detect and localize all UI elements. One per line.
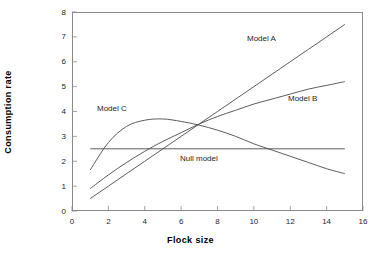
y-tick-label: 5 xyxy=(46,82,66,91)
series-label-model-a: Model A xyxy=(247,34,276,43)
y-axis-title: Consumption rate xyxy=(3,57,13,167)
series-line-model-c xyxy=(90,119,345,174)
series-label-model-c: Model C xyxy=(97,104,127,113)
y-tick-label: 1 xyxy=(46,182,66,191)
y-tick-label: 3 xyxy=(46,132,66,141)
x-tick-label: 14 xyxy=(317,217,337,226)
x-tick-label: 6 xyxy=(171,217,191,226)
y-tick-label: 4 xyxy=(46,107,66,116)
x-tick-label: 8 xyxy=(208,217,228,226)
series-group xyxy=(90,24,345,198)
y-tick-label: 6 xyxy=(46,57,66,66)
x-tick-label: 2 xyxy=(98,217,118,226)
y-tick-label: 0 xyxy=(46,207,66,216)
y-tick-label: 7 xyxy=(46,32,66,41)
x-tick-label: 16 xyxy=(353,217,373,226)
y-tick-label: 2 xyxy=(46,157,66,166)
x-tick-label: 12 xyxy=(280,217,300,226)
x-tick-label: 10 xyxy=(244,217,264,226)
series-label-null-model: Null model xyxy=(180,154,218,163)
y-tick-label: 8 xyxy=(46,8,66,17)
x-tick-label: 0 xyxy=(62,217,82,226)
x-tick-label: 4 xyxy=(135,217,155,226)
series-line-model-a xyxy=(90,24,345,198)
series-label-model-b: Model B xyxy=(288,94,317,103)
x-axis-title: Flock size xyxy=(0,235,381,245)
chart-figure: 012345678 0246810121416 Flock size Consu… xyxy=(0,0,381,258)
